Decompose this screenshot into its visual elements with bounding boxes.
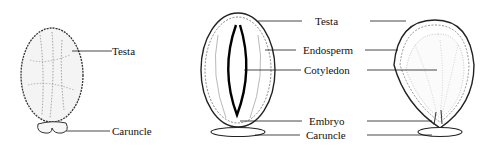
seed-section-front: [201, 13, 302, 137]
seed-section-side: [365, 20, 474, 137]
label-cotyledon: Cotyledon: [304, 64, 350, 76]
label-testa: Testa: [315, 15, 338, 27]
seed-external: [21, 28, 112, 133]
label-caruncle: Caruncle: [306, 129, 346, 141]
label-endosperm: Endosperm: [303, 44, 353, 56]
label-embryo: Embryo: [309, 115, 344, 127]
label-caruncle-external: Caruncle: [112, 125, 152, 137]
castor-seed-diagram: [0, 0, 504, 150]
label-testa-external: Testa: [112, 45, 135, 57]
